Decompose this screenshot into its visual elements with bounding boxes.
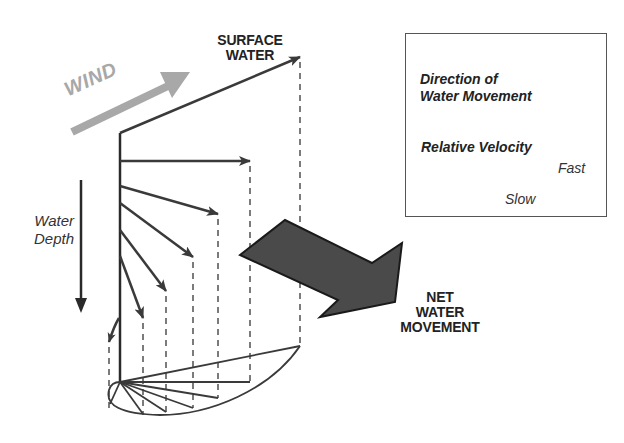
surface-water-label-line2: WATER (200, 48, 300, 63)
spiral-projection (108, 346, 300, 415)
vector-arrow-icon (120, 203, 193, 257)
net-water-movement-line2: WATER (385, 305, 495, 320)
legend-direction-title-line1: Direction of (420, 71, 532, 88)
legend (405, 33, 607, 217)
net-water-movement-line1: NET (385, 290, 495, 305)
water-depth-label: Water Depth (16, 212, 74, 248)
vector-arrow-icon (120, 186, 218, 214)
ekman-spiral-diagram: WIND SURFACE WATER Water Depth NET WATER… (0, 0, 624, 443)
net-water-movement-arrow-icon (240, 220, 402, 317)
water-depth-arrow-icon (75, 180, 87, 313)
surface-water-label: SURFACE WATER (200, 33, 300, 63)
vector-arrow-icon (109, 318, 119, 342)
legend-fast-label: Fast (558, 160, 585, 176)
surface-water-label-line1: SURFACE (200, 33, 300, 48)
net-water-movement-line3: MOVEMENT (385, 320, 495, 335)
legend-direction-title-line2: Water Movement (420, 88, 532, 105)
water-depth-label-line1: Water (16, 212, 74, 230)
vector-arrow-icon (120, 230, 166, 291)
net-water-movement-label: NET WATER MOVEMENT (385, 290, 495, 335)
vector-arrow-icon (120, 256, 143, 318)
legend-slow-label: Slow (505, 191, 535, 207)
velocity-vectors (109, 161, 250, 342)
legend-direction-title: Direction of Water Movement (420, 71, 532, 105)
water-depth-label-line2: Depth (16, 230, 74, 248)
legend-velocity-title: Relative Velocity (421, 139, 532, 156)
